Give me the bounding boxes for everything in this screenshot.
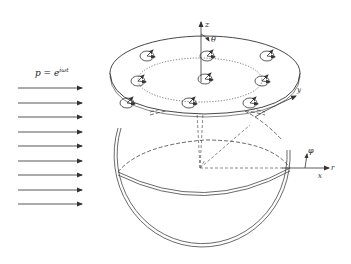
incident-wave-label: p = eiωt xyxy=(35,66,69,78)
resonator-disk xyxy=(110,36,300,117)
sphere xyxy=(114,98,290,247)
y-axis-label: y xyxy=(296,86,302,94)
x-axis-label: x xyxy=(318,172,322,180)
phi-label: φ xyxy=(308,146,314,155)
z-axis-label: z xyxy=(204,20,210,29)
theta-label: θ xyxy=(211,35,216,44)
x-axis xyxy=(282,154,329,168)
incident-wave-arrows xyxy=(18,88,82,204)
r-axis-label: r xyxy=(331,164,335,172)
diagram: p = eiωt xyxy=(0,0,351,264)
internal-coordinate-lines xyxy=(197,113,290,168)
